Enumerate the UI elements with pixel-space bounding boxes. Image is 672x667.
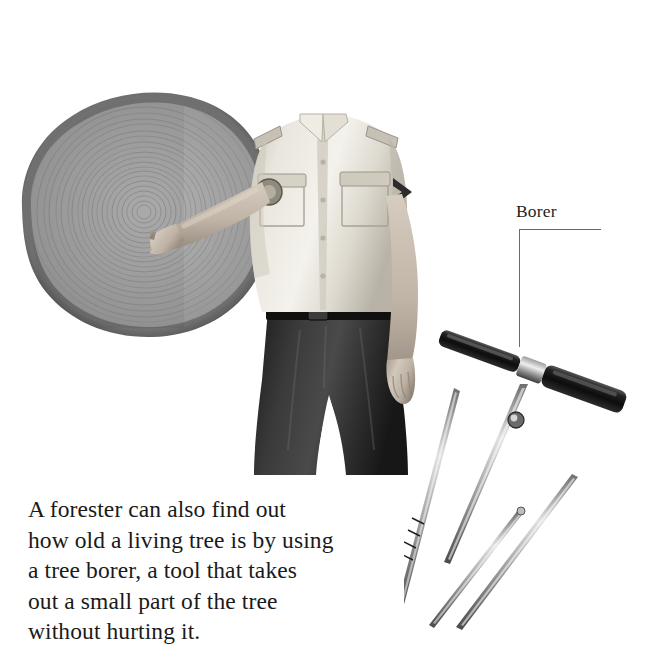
borer-t-handle bbox=[436, 326, 628, 415]
pocket-flap-right bbox=[340, 172, 390, 186]
callout-leader-line bbox=[519, 229, 520, 347]
borer-bit-shaft bbox=[444, 384, 528, 564]
caption-text-block: A forester can also find out how old a l… bbox=[28, 494, 388, 647]
callout-horizontal-line bbox=[519, 229, 601, 230]
forester-shirt bbox=[250, 114, 407, 312]
caption-line-4: out a small part of the tree bbox=[28, 586, 388, 617]
caption-line-1: A forester can also find out bbox=[28, 494, 388, 525]
borer-callout-label: Borer bbox=[516, 201, 557, 222]
extractor-rod-long bbox=[404, 388, 460, 612]
caption-line-3: a tree borer, a tool that takes bbox=[28, 555, 388, 586]
caption-line-5: without hurting it. bbox=[28, 616, 388, 647]
increment-borer-tool bbox=[404, 312, 672, 632]
illustration-page: Borer A forester can also find out how o… bbox=[0, 0, 672, 667]
caption-line-2: how old a living tree is by using bbox=[28, 525, 388, 556]
